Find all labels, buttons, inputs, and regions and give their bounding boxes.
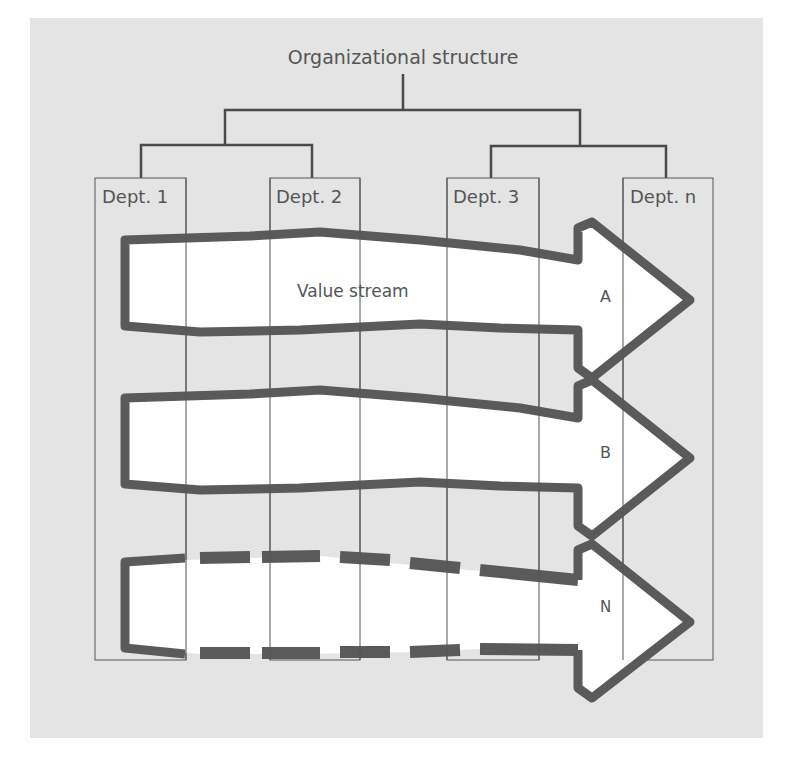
dept-1-label: Dept. 1 xyxy=(102,186,168,207)
dept-3-label: Dept. 3 xyxy=(453,186,519,207)
value-stream-arrow-n xyxy=(125,544,690,698)
org-structure-title: Organizational structure xyxy=(288,46,519,68)
org-tree xyxy=(141,74,666,178)
diagram-svg: Organizational structure Dept. 1 Dept. 2… xyxy=(0,0,793,757)
stream-b-label: B xyxy=(600,443,611,462)
dept-2-label: Dept. 2 xyxy=(276,186,342,207)
dept-n-label: Dept. n xyxy=(630,186,696,207)
diagram-canvas: Organizational structure Dept. 1 Dept. 2… xyxy=(0,0,793,757)
stream-a-label: A xyxy=(600,287,611,306)
stream-n-label: N xyxy=(600,598,611,616)
value-stream-caption: Value stream xyxy=(297,281,409,301)
